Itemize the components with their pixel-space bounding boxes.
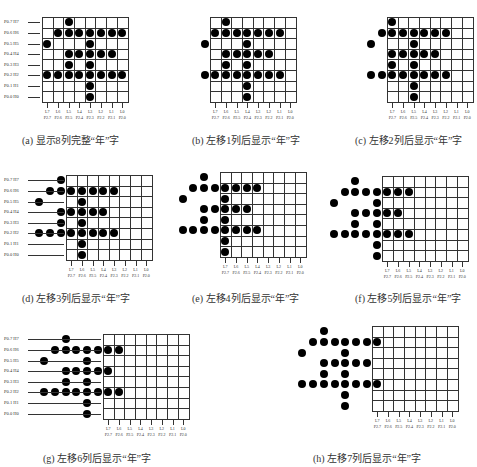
col-tick	[452, 412, 453, 417]
led-dot	[351, 177, 359, 185]
led-dot	[373, 199, 381, 207]
led-dot	[78, 251, 86, 259]
row-tick	[28, 223, 64, 224]
col-tick	[467, 103, 468, 108]
row-label: P0.3 H3	[4, 62, 19, 67]
led-cell	[457, 250, 469, 262]
col-tick	[420, 412, 421, 417]
panel-caption-e: (e) 左移4列后显示“年”字	[192, 290, 299, 305]
row-label: P0.6 H6	[4, 30, 19, 35]
row-label: P0.3 H3	[4, 220, 19, 225]
col-tick	[441, 262, 442, 267]
row-label: P0.4 H4	[4, 368, 19, 373]
led-dot	[442, 29, 450, 37]
col-tick	[300, 258, 301, 263]
row-tick	[28, 361, 101, 362]
col-tick	[409, 412, 410, 417]
row-tick	[28, 97, 40, 98]
led-dot	[373, 220, 381, 228]
led-dot	[78, 240, 86, 248]
row-tick	[28, 44, 40, 45]
led-dot	[201, 40, 209, 48]
col-tick	[225, 258, 226, 263]
panel-caption-b: (b) 左移1列后显示“年”字	[192, 132, 300, 147]
col-tick	[258, 103, 259, 108]
led-dot	[222, 61, 230, 69]
led-dot	[200, 216, 208, 224]
led-dot	[362, 188, 370, 196]
row-label: P0.6 H6	[4, 188, 19, 193]
led-dot	[351, 188, 359, 196]
col-tick	[114, 261, 115, 266]
row-tick	[28, 339, 101, 340]
led-dot	[97, 50, 105, 58]
col-label-bottom: P2.0	[456, 274, 468, 280]
col-tick	[457, 103, 458, 108]
led-cell	[295, 246, 307, 258]
row-label: P0.3 H3	[4, 379, 19, 384]
row-label: P0.1 H1	[4, 241, 19, 246]
col-tick	[431, 412, 432, 417]
col-tick	[103, 261, 104, 266]
led-dot	[200, 226, 208, 234]
col-label-bottom: P2.0	[446, 424, 458, 430]
led-dot	[410, 61, 418, 69]
col-tick	[247, 103, 248, 108]
led-dot	[200, 173, 208, 181]
led-dot	[232, 184, 240, 192]
col-tick	[69, 103, 70, 108]
led-dot	[65, 29, 73, 37]
col-tick	[387, 262, 388, 267]
row-label: P0.2 H2	[4, 230, 19, 235]
col-tick	[183, 420, 184, 425]
panel-caption-d: (d) 左移3列后显示“年”字	[22, 290, 130, 305]
led-dot	[405, 188, 413, 196]
led-dot	[200, 184, 208, 192]
led-dot	[320, 327, 328, 335]
led-dot	[43, 40, 51, 48]
col-tick	[112, 103, 113, 108]
col-tick	[414, 103, 415, 108]
col-tick	[146, 261, 147, 266]
led-dot	[86, 93, 94, 101]
led-cell	[178, 408, 190, 420]
col-tick	[435, 103, 436, 108]
led-dot	[201, 71, 209, 79]
col-tick	[236, 258, 237, 263]
led-dot	[309, 380, 317, 388]
led-dot	[330, 199, 338, 207]
led-dot	[89, 187, 97, 195]
col-tick	[162, 420, 163, 425]
col-tick	[215, 103, 216, 108]
led-dot	[410, 93, 418, 101]
led-dot	[320, 338, 328, 346]
led-dot	[221, 195, 229, 203]
row-tick	[28, 255, 64, 256]
led-dot	[276, 29, 284, 37]
row-tick	[28, 54, 40, 55]
col-tick	[409, 262, 410, 267]
col-tick	[136, 261, 137, 266]
row-label: P0.4 H4	[4, 209, 19, 214]
col-tick	[399, 412, 400, 417]
col-tick	[257, 258, 258, 263]
col-tick	[173, 420, 174, 425]
led-dot	[363, 380, 371, 388]
led-dot	[378, 71, 386, 79]
led-cell	[447, 400, 459, 412]
col-tick	[462, 262, 463, 267]
led-dot	[211, 184, 219, 192]
led-dot	[367, 71, 375, 79]
row-label: P0.0 H0	[4, 411, 19, 416]
col-label-bottom: P2.0	[177, 432, 189, 438]
col-tick	[280, 103, 281, 108]
led-dot	[431, 29, 439, 37]
led-cell	[117, 91, 129, 103]
row-label: P0.5 H5	[4, 41, 19, 46]
panel-caption-g: (g) 左移6列后显示“年”字	[43, 450, 151, 465]
row-tick	[28, 382, 101, 383]
led-dot	[211, 226, 219, 234]
led-dot	[243, 184, 251, 192]
led-dot	[351, 230, 359, 238]
led-dot	[54, 29, 62, 37]
